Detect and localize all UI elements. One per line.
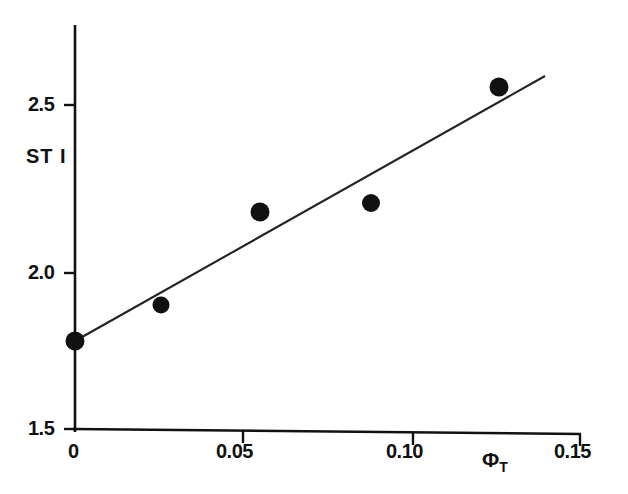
x-tick-label-0-10: 0.10 <box>386 440 423 463</box>
data-point <box>362 194 380 212</box>
y-tick-label-2-5: 2.5 <box>28 93 54 116</box>
scatter-plot-canvas <box>0 0 628 494</box>
x-tick-label-0-15: 0.15 <box>554 440 591 463</box>
data-point <box>490 78 509 97</box>
x-tick-label-0: 0 <box>68 440 79 463</box>
x-tick-label-0-05: 0.05 <box>216 440 253 463</box>
x-axis-title-base: Φ <box>482 448 499 471</box>
data-point <box>66 332 85 351</box>
y-axis-title: ST I <box>26 145 67 168</box>
x-axis-line <box>73 429 581 434</box>
x-axis-title-subscript: T <box>499 459 508 475</box>
regression-line <box>75 76 545 341</box>
data-point <box>251 203 270 222</box>
y-tick-label-2-0: 2.0 <box>28 261 54 284</box>
y-tick-label-1-5: 1.5 <box>28 417 54 440</box>
chart-figure: ST I ΦT 2.5 2.0 1.5 0 0.05 0.10 0.15 <box>0 0 628 494</box>
x-axis-title: ΦT <box>482 448 508 475</box>
data-point <box>153 297 170 314</box>
